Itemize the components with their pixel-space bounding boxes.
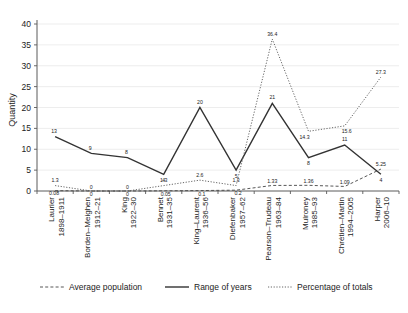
y-tick-label: 30 (22, 61, 32, 71)
data-point-label: 8 (125, 149, 128, 155)
x-tick-label-name: King–Laurent (192, 196, 201, 244)
y-tick-label: 25 (22, 82, 32, 92)
x-tick-label-years: 1936–56 (201, 196, 210, 228)
data-point-label: 0 (90, 184, 93, 190)
y-tick-label: 0 (26, 186, 31, 196)
data-point-label: 5.25 (376, 161, 386, 167)
data-point-label: 1.09 (340, 179, 350, 185)
x-tick-label-years: 1898–1911 (57, 196, 66, 236)
x-tick-label-group: Harper2006–10 (373, 196, 392, 228)
x-tick-label-group: Borden–Meighen1912–21 (83, 196, 102, 257)
data-point-label: 0 (126, 184, 129, 190)
data-point-label: 1.3 (232, 177, 239, 183)
x-tick-labels: Laurier1898–1911Borden–Meighen1912–21Kin… (47, 196, 391, 261)
data-point-label: 9 (89, 145, 92, 151)
chart-legend: Average populationRange of yearsPercenta… (40, 282, 373, 292)
y-tick-label: 40 (22, 19, 32, 29)
x-tick-label-group: King1922–30 (120, 196, 139, 228)
data-point-label: 0 (126, 191, 129, 197)
x-tick-label-group: Chrétien–Martin1994–2005 (337, 196, 356, 253)
chart-container: 0510152025303540 Quantity 13984205218114… (0, 0, 408, 313)
x-tick-label-years: 1985–93 (310, 196, 319, 228)
x-tick-label-years: 1931–35 (165, 196, 174, 228)
y-tick-label: 15 (22, 123, 32, 133)
data-point-label: 1.36 (303, 178, 313, 184)
x-tick-label-years: 1912–21 (93, 196, 102, 228)
x-tick-label-name: Pearson–Trudeau (264, 197, 273, 261)
x-tick-label-group: Bennet1931–35 (156, 196, 175, 228)
series-line-dashed (55, 169, 381, 191)
series-line-dotted (55, 39, 381, 191)
x-tick-label-name: Harper (373, 197, 382, 222)
line-chart: 0510152025303540 Quantity 13984205218114… (0, 0, 408, 313)
x-tick-label-name: Bennet (156, 196, 165, 222)
data-point-label: 0.1 (198, 191, 205, 197)
data-point-label: 0.2 (234, 190, 241, 196)
x-tick-label-group: Diefenbaker1957–62 (228, 196, 247, 240)
data-point-label: 36.4 (267, 31, 277, 37)
x-tick-label-years: 1963–84 (274, 196, 283, 228)
data-point-label: 0 (90, 191, 93, 197)
data-point-label: 15.6 (342, 128, 352, 134)
data-point-label: 1.3 (160, 177, 167, 183)
y-axis: 0510152025303540 (22, 19, 37, 196)
y-tick-label: 35 (22, 40, 32, 50)
y-tick-label: 20 (22, 103, 32, 113)
x-tick-label-years: 1957–62 (238, 196, 247, 228)
data-point-label: 21 (269, 94, 275, 100)
y-tick-label: 10 (22, 144, 32, 154)
data-point-label: 2.6 (196, 172, 203, 178)
legend-label: Range of years (194, 282, 252, 292)
y-axis-title: Quantity (7, 93, 17, 127)
data-point-label: 1.33 (267, 178, 277, 184)
series-layer (55, 39, 381, 191)
x-tick-label-group: Laurier1898–1911 (47, 196, 66, 236)
data-point-label: 13 (51, 128, 57, 134)
x-tick-label-years: 2006–10 (382, 196, 391, 228)
x-tick-label-group: Pearson–Trudeau1963–84 (264, 196, 283, 260)
x-tick-label-name: King (120, 197, 129, 213)
x-tick-label-name: Chrétien–Martin (337, 197, 346, 254)
x-tick-label-group: Mulroney1985–93 (301, 196, 320, 229)
data-point-label: 14.3 (299, 134, 309, 140)
x-tick-label-name: Diefenbaker (228, 197, 237, 240)
data-point-label: 0.05 (161, 191, 171, 197)
data-point-label: 0.08 (49, 190, 59, 196)
series-line-solid (55, 103, 381, 174)
point-labels-layer: 139842052181141.3001.32.61.336.414.315.6… (49, 31, 386, 198)
legend-label: Average population (69, 282, 142, 292)
data-point-label: 4 (379, 177, 382, 183)
legend-label: Percentage of totals (297, 282, 373, 292)
x-tick-label-group: King–Laurent1936–56 (192, 196, 211, 244)
data-point-label: 20 (197, 99, 203, 105)
data-point-label: 8 (307, 160, 310, 166)
data-point-label: 1.3 (51, 177, 58, 183)
x-tick-label-name: Laurier (47, 197, 56, 222)
x-tick-label-name: Borden–Meighen (83, 197, 92, 258)
x-tick-label-years: 1994–2005 (346, 196, 355, 237)
x-tick-label-years: 1922–30 (129, 196, 138, 228)
x-tick-label-name: Mulroney (301, 197, 310, 230)
y-tick-label: 5 (26, 165, 31, 175)
data-point-label: 11 (342, 136, 347, 142)
data-point-label: 27.3 (376, 69, 386, 75)
